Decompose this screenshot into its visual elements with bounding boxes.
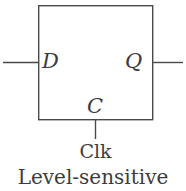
clock-caption: Clk bbox=[0, 140, 186, 162]
latch-symbol-figure: D Q C Clk Level-sensitive bbox=[0, 0, 186, 191]
port-label-c: C bbox=[87, 96, 103, 117]
port-label-q: Q bbox=[125, 51, 142, 72]
port-label-d: D bbox=[42, 51, 59, 72]
figure-type-caption: Level-sensitive bbox=[0, 165, 186, 189]
